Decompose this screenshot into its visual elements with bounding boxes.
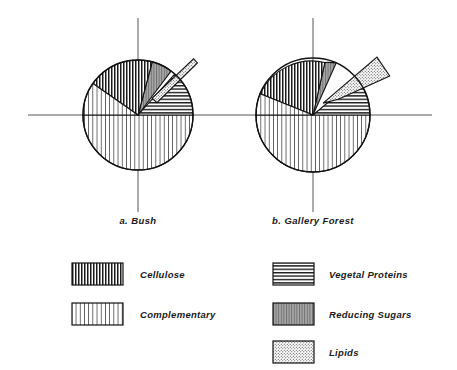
caption-gallery-forest: b. Gallery Forest	[272, 215, 354, 226]
legend-swatch-reducing-sugars	[273, 303, 314, 325]
legend-swatch-vegetal-proteins	[273, 263, 314, 285]
legend-swatch-complementary	[72, 303, 123, 325]
legend-label-reducing-sugars: Reducing Sugars	[329, 309, 412, 320]
legend-label-complementary: Complementary	[140, 309, 216, 320]
caption-bush: a. Bush	[119, 215, 156, 226]
legend-label-lipids: Lipids	[329, 347, 359, 358]
legend-label-cellulose: Cellulose	[140, 269, 185, 280]
legend-label-vegetal-proteins: Vegetal Proteins	[329, 269, 408, 280]
legend-swatch-lipids	[273, 341, 314, 363]
pie-chart-figure: a. Bush b. Gallery Forest	[0, 0, 457, 370]
figure-container: a. Bush b. Gallery Forest	[0, 0, 457, 370]
legend-swatch-cellulose	[72, 263, 123, 285]
